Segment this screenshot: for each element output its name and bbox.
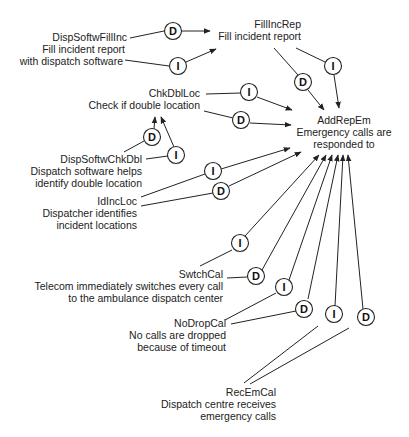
node-name: AddRepEm	[317, 114, 371, 126]
svg-text:I: I	[211, 165, 214, 177]
node-desc: identify double location	[35, 177, 142, 189]
marker-i-chkdblloc[interactable]: I	[241, 84, 258, 101]
edge-nodropcal-d-in	[231, 311, 296, 324]
marker-i-dispsoftwchkdbl[interactable]: I	[168, 147, 185, 164]
marker-d-recemcal[interactable]: D	[358, 309, 375, 326]
node-dispsoftwfillinc[interactable]: DispSoftwFillInc Fill incident report wi…	[19, 31, 127, 67]
node-desc: responded to	[313, 138, 374, 150]
marker-d-nodropcal[interactable]: D	[296, 301, 313, 318]
node-desc: Dispatch software helps	[31, 165, 142, 177]
edge-fillincrep-d-in	[274, 48, 298, 75]
edge-chkdblloc-d-out	[250, 123, 291, 125]
node-dispsoftwchkdbl[interactable]: DispSoftwChkDbl Dispatch software helps …	[31, 153, 143, 189]
edge-dispsoftwfillinc-i-out	[186, 49, 216, 62]
marker-d-dispsoftwfillinc[interactable]: D	[165, 23, 182, 40]
node-name: IdIncLoc	[97, 195, 137, 207]
node-name: RecEmCal	[226, 386, 276, 398]
svg-text:I: I	[176, 60, 179, 72]
svg-text:D: D	[148, 131, 156, 143]
node-desc: Check if double location	[89, 99, 201, 111]
node-desc: Dispatch centre receives	[161, 398, 276, 410]
node-desc: Dispatcher identifies	[42, 207, 137, 219]
edge-idincloc-i-out	[221, 148, 290, 169]
node-recemcal[interactable]: RecEmCal Dispatch centre receives emerge…	[161, 386, 276, 422]
edge-dispsoftwchkdbl-i-in	[146, 156, 168, 159]
edge-fillincrep-i-out	[334, 75, 339, 108]
edge-dispsoftwchkdbl-d-out	[154, 117, 155, 129]
marker-d-idincloc[interactable]: D	[213, 183, 230, 200]
edge-dispsoftwfillinc-d-in	[130, 31, 164, 38]
svg-text:D: D	[169, 25, 177, 37]
node-addrepem[interactable]: AddRepEm Emergency calls are responded t…	[296, 114, 391, 150]
edge-idincloc-i-in	[141, 174, 205, 197]
node-name: NoDropCal	[174, 317, 226, 329]
node-fillincrep[interactable]: FillIncRep Fill incident report	[218, 18, 301, 42]
node-desc: Telecom immediately switches every call	[35, 280, 223, 292]
edge-swtchcal-i-in	[200, 250, 232, 266]
marker-i-idincloc[interactable]: I	[205, 163, 222, 180]
svg-text:D: D	[362, 311, 370, 323]
node-idincloc[interactable]: IdIncLoc Dispatcher identifies incident …	[42, 195, 137, 231]
edge-recemcal-i-out	[335, 155, 343, 306]
edge-recemcal-d-out	[348, 155, 363, 309]
edge-dispsoftwfillinc-i-in	[125, 60, 169, 66]
edge-idincloc-d-out	[229, 152, 301, 186]
node-chkdblloc[interactable]: ChkDblLoc Check if double location	[89, 87, 201, 111]
node-desc: Emergency calls are	[296, 126, 391, 138]
marker-d-dispsoftwchkdbl[interactable]: D	[144, 129, 161, 146]
node-desc: incident locations	[56, 219, 137, 231]
edge-recemcal-i-in	[244, 326, 318, 383]
node-desc: with dispatch software	[19, 55, 123, 67]
edge-dispsoftwchkdbl-i-out	[161, 117, 174, 147]
svg-text:I: I	[238, 237, 241, 249]
marker-i-fillincrep[interactable]: I	[325, 58, 342, 75]
svg-text:D: D	[300, 303, 308, 315]
edge-idincloc-d-in	[141, 193, 213, 206]
edge-chkdblloc-i-in	[206, 93, 241, 94]
node-desc: because of timeout	[137, 341, 226, 353]
marker-i-nodropcal[interactable]: I	[276, 279, 293, 296]
svg-text:I: I	[332, 308, 335, 320]
goal-graph-diagram: D I D I I D D I	[0, 0, 409, 437]
edge-dispsoftwchkdbl-d-in	[124, 141, 144, 152]
svg-text:I: I	[331, 60, 334, 72]
node-desc: emergency calls	[200, 410, 276, 422]
marker-i-swtchcal[interactable]: I	[232, 235, 249, 252]
edge-nodropcal-i-out	[289, 155, 332, 280]
marker-i-dispsoftwfillinc[interactable]: I	[170, 58, 187, 75]
edge-chkdblloc-i-out	[257, 97, 292, 110]
edge-swtchcal-d-in	[227, 277, 247, 278]
svg-text:D: D	[217, 185, 225, 197]
edge-swtchcal-d-out	[262, 155, 326, 270]
node-name: DispSoftwChkDbl	[60, 153, 142, 165]
marker-i-recemcal[interactable]: I	[326, 306, 343, 323]
edge-nodropcal-i-in	[225, 293, 276, 320]
node-swtchcal[interactable]: SwtchCal Telecom immediately switches ev…	[35, 268, 224, 304]
node-nodropcal[interactable]: NoDropCal No calls are dropped because o…	[129, 317, 226, 353]
svg-text:D: D	[252, 270, 260, 282]
node-desc: Fill incident report	[218, 30, 301, 42]
node-name: SwtchCal	[179, 268, 223, 280]
marker-d-swtchcal[interactable]: D	[248, 268, 265, 285]
svg-text:I: I	[247, 86, 250, 98]
edge-recemcal-d-in	[250, 328, 349, 384]
edge-chkdblloc-d-in	[204, 111, 233, 118]
edge-nodropcal-d-out	[308, 155, 338, 299]
svg-text:D: D	[237, 114, 245, 126]
node-desc: No calls are dropped	[129, 329, 226, 341]
svg-text:I: I	[174, 149, 177, 161]
svg-text:D: D	[299, 76, 307, 88]
node-desc: to the ambulance dispatch center	[68, 292, 223, 304]
edge-fillincrep-d-out	[308, 90, 324, 110]
marker-d-fillincrep[interactable]: D	[295, 74, 312, 91]
node-desc: Fill incident report	[42, 43, 125, 55]
marker-d-chkdblloc[interactable]: D	[233, 112, 250, 129]
node-name: DispSoftwFillInc	[52, 31, 127, 43]
svg-text:I: I	[282, 281, 285, 293]
node-name: FillIncRep	[254, 18, 301, 30]
node-name: ChkDblLoc	[149, 87, 200, 99]
edge-fillincrep-i-in	[296, 48, 325, 62]
